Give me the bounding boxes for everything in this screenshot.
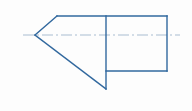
upper-diagonal-edge (35, 16, 57, 35)
line-drawing-svg (0, 0, 192, 111)
drawing-canvas: Arrowhead profile orthographic line draw… (0, 0, 192, 111)
lower-diagonal-edge (35, 35, 106, 89)
